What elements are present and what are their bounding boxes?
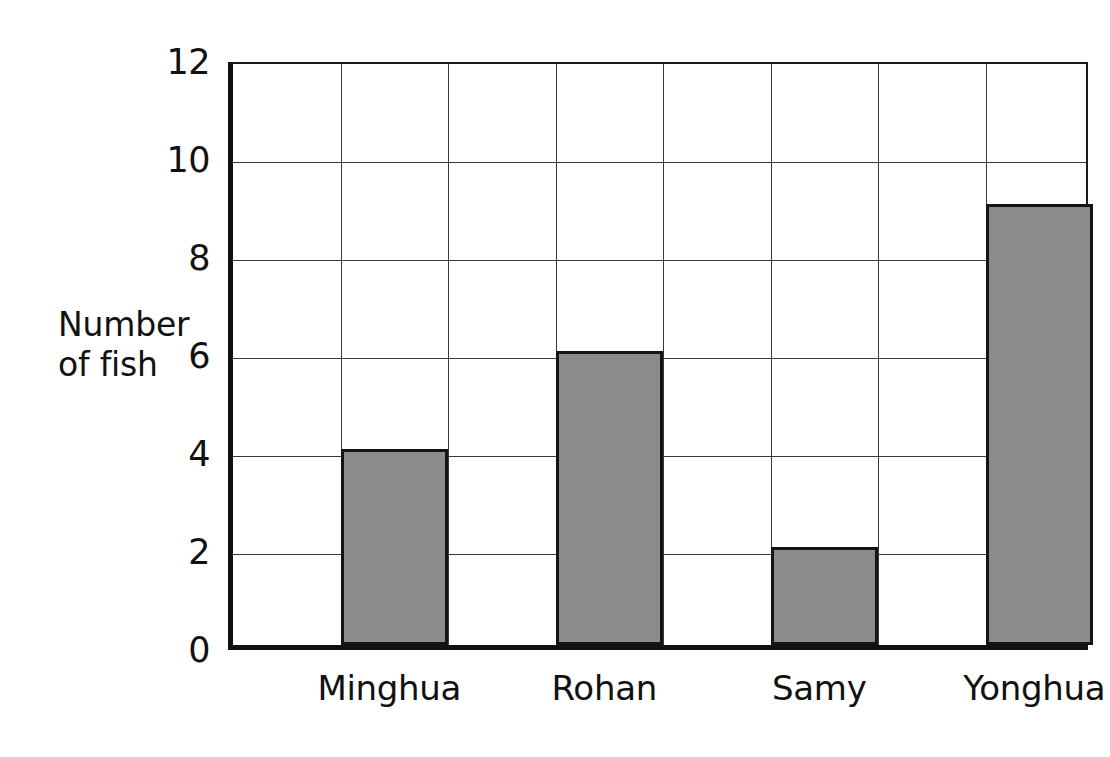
y-tick-label: 10 <box>166 143 210 178</box>
y-axis-tick-labels: 024681012 <box>148 62 210 650</box>
x-tick-label-samy: Samy <box>772 668 866 708</box>
x-tick-label-rohan: Rohan <box>552 668 657 708</box>
gridline-horizontal <box>233 162 1086 163</box>
y-tick-label: 4 <box>188 437 210 472</box>
y-tick-label: 12 <box>166 45 210 80</box>
y-tick-label: 2 <box>188 535 210 570</box>
bar-chart: Number of fish 024681012 MinghuaRohanSam… <box>0 0 1110 757</box>
gridline-horizontal <box>233 260 1086 261</box>
gridline-vertical <box>878 64 879 645</box>
x-tick-label-minghua: Minghua <box>317 668 461 708</box>
y-tick-label: 8 <box>188 241 210 276</box>
bar-rohan <box>556 351 664 645</box>
y-tick-label: 6 <box>188 339 210 374</box>
bar-minghua <box>341 449 449 645</box>
bar-samy <box>771 547 879 645</box>
gridline-vertical <box>663 64 664 645</box>
x-tick-label-yonghua: Yonghua <box>963 668 1105 708</box>
plot-area <box>228 62 1088 650</box>
gridline-vertical <box>448 64 449 645</box>
bar-yonghua <box>986 204 1094 645</box>
y-tick-label: 0 <box>188 633 210 668</box>
